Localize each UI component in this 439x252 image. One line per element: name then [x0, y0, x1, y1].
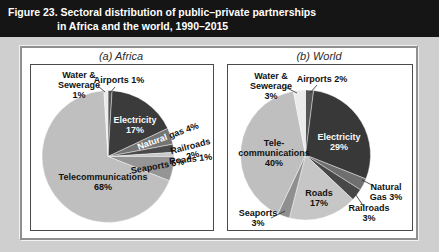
- slice-label-airports: Airports 1%: [94, 75, 145, 85]
- svg-text:communications: communications: [238, 148, 310, 158]
- svg-text:Seaports: Seaports: [239, 208, 278, 218]
- world-pie-chart: Airports 2%Electricity29%NaturalGas 3%Ra…: [228, 65, 412, 230]
- svg-text:17%: 17%: [126, 125, 144, 135]
- figure-panel: (a) Africa (b) World Airports 1%Electric…: [20, 46, 418, 240]
- slice-label-airports: Airports 2%: [297, 74, 348, 84]
- svg-text:Electricity: Electricity: [317, 132, 360, 142]
- chart-title-africa: (a) Africa: [30, 50, 212, 63]
- svg-text:Natural: Natural: [370, 182, 401, 192]
- svg-text:Gas 3%: Gas 3%: [370, 192, 403, 202]
- svg-text:Tele-: Tele-: [264, 138, 284, 148]
- svg-text:3%: 3%: [251, 218, 264, 228]
- svg-text:Water &: Water &: [254, 71, 288, 81]
- chart-box-africa: Airports 1%Electricity17%Natural gas 4%R…: [30, 64, 214, 231]
- svg-text:Telecommunications: Telecommunications: [59, 172, 148, 182]
- svg-text:3%: 3%: [362, 213, 375, 223]
- svg-text:Airports 1%: Airports 1%: [94, 75, 145, 85]
- svg-text:Sewerage: Sewerage: [250, 81, 292, 91]
- svg-text:Airports 2%: Airports 2%: [297, 74, 348, 84]
- chart-title-world: (b) World: [227, 50, 411, 63]
- svg-text:40%: 40%: [265, 158, 283, 168]
- svg-text:68%: 68%: [94, 182, 112, 192]
- svg-text:Water &: Water &: [62, 70, 96, 80]
- svg-text:Electricity: Electricity: [113, 115, 156, 125]
- slice-label-railroads: Railroads3%: [348, 203, 389, 223]
- africa-pie-chart: Airports 1%Electricity17%Natural gas 4%R…: [31, 65, 213, 230]
- chart-box-world: Airports 2%Electricity29%NaturalGas 3%Ra…: [227, 64, 413, 231]
- figure-title-bar: Figure 23. Sectoral distribution of publ…: [0, 0, 439, 37]
- svg-text:Sewerage: Sewerage: [58, 80, 100, 90]
- svg-text:Roads: Roads: [305, 188, 333, 198]
- figure-title-line2: in Africa and the world, 1990–2015: [0, 19, 439, 33]
- svg-text:1%: 1%: [72, 90, 85, 100]
- slice-label-natural-gas: NaturalGas 3%: [370, 182, 403, 202]
- svg-text:17%: 17%: [310, 198, 328, 208]
- svg-text:29%: 29%: [330, 142, 348, 152]
- svg-text:Railroads: Railroads: [348, 203, 389, 213]
- figure-title-line1: Figure 23. Sectoral distribution of publ…: [0, 0, 439, 19]
- svg-text:3%: 3%: [264, 91, 277, 101]
